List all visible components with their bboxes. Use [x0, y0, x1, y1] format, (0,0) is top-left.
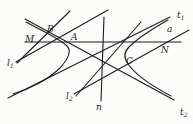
- label-N: N: [160, 45, 170, 55]
- label-t1: t1: [177, 10, 184, 21]
- label-A: A: [70, 32, 78, 42]
- label-C: C: [126, 56, 133, 66]
- line-n: [101, 17, 104, 101]
- label-t2: t2: [180, 107, 188, 118]
- label-l2: l2: [66, 91, 73, 102]
- label-B: B: [46, 24, 54, 34]
- label-l1: l1: [7, 58, 14, 69]
- label-n: n: [96, 102, 102, 112]
- geometry-figure: t1aNCt2nl2l1MBA: [0, 0, 193, 124]
- figure-canvas: t1aNCt2nl2l1MBA: [0, 0, 193, 124]
- label-M: M: [24, 34, 35, 44]
- label-a: a: [167, 24, 172, 34]
